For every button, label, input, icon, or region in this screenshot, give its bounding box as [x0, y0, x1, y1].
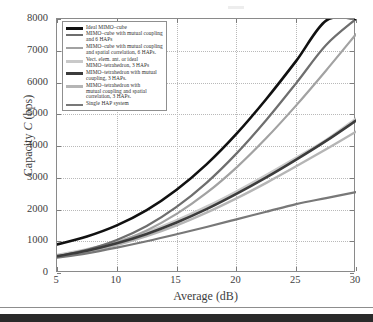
x-tick-label: 20: [230, 274, 241, 286]
page-edge-band: [0, 314, 373, 322]
legend-label: MIMO–cube with mutual coupling and 6 HAP…: [86, 31, 163, 43]
x-axis-tick: [296, 267, 297, 271]
y-axis-tick: [57, 114, 61, 115]
legend-entry: MIMO–cube with mutual coupling and spati…: [65, 44, 164, 56]
legend-swatch: [66, 27, 83, 30]
x-axis-tick: [57, 267, 58, 271]
legend-entry: Single HAP system: [65, 101, 164, 107]
y-axis-tick: [57, 178, 61, 179]
y-axis-tick: [350, 51, 354, 52]
y-axis-tick: [57, 210, 61, 211]
y-axis-tick: [57, 241, 61, 242]
y-axis-tick: [350, 178, 354, 179]
y-axis-tick: [350, 146, 354, 147]
legend-entry: MIMO–tetrahedron with mutual coupling, 3…: [65, 69, 164, 81]
x-axis-tick: [236, 19, 237, 23]
x-axis-tick: [356, 19, 357, 23]
series-line: [57, 119, 356, 255]
legend-swatch: [66, 60, 83, 63]
y-tick-label: 8000: [27, 13, 48, 23]
y-axis-title-suffix: (bps): [21, 95, 35, 123]
y-axis-tick: [350, 114, 354, 115]
legend-swatch: [66, 72, 83, 75]
y-axis-tick: [350, 210, 354, 211]
x-axis-title: Average (dB): [56, 289, 355, 304]
legend-label: MIMO–cube with mutual coupling and spati…: [86, 44, 163, 56]
chart-legend: Ideal MIMO–cubeMIMO–cube with mutual cou…: [62, 21, 167, 111]
legend-entry: Vect. elem. ant. or ideal MIMO–tetrahedr…: [65, 57, 164, 69]
legend-label: Single HAP system: [86, 101, 129, 107]
y-axis-title: Capacity C (bps): [21, 51, 36, 221]
page-divider-rule: [0, 307, 373, 308]
legend-swatch: [66, 34, 83, 36]
legend-entry: MIMO–cube with mutual coupling and 6 HAP…: [65, 31, 164, 43]
y-axis-tick: [350, 241, 354, 242]
x-axis-tick: [117, 267, 118, 271]
legend-entry: MIMO–tetrahedron with mutual coupling an…: [65, 82, 164, 100]
x-tick-label: 25: [290, 274, 301, 286]
x-axis-tick: [356, 267, 357, 271]
legend-label: MIMO–tetrahedron with mutual coupling, 3…: [86, 69, 157, 81]
x-axis-tick: [236, 267, 237, 271]
x-tick-label: 10: [111, 274, 122, 286]
legend-label: MIMO–tetrahedron with mutual coupling an…: [86, 82, 147, 100]
x-axis-tick: [177, 19, 178, 23]
legend-swatch: [66, 104, 83, 106]
figure-container: Ideal MIMO–cubeMIMO–cube with mutual cou…: [0, 0, 373, 322]
y-axis-tick: [350, 19, 354, 20]
y-axis-tick: [57, 146, 61, 147]
x-tick-label: 5: [53, 274, 58, 286]
y-axis-title-symbol: C: [21, 123, 35, 131]
y-axis-tick: [57, 83, 61, 84]
y-tick-label: 1000: [27, 235, 48, 245]
x-axis-title-text: Average (dB): [173, 289, 238, 303]
x-tick-label: 30: [350, 274, 361, 286]
legend-swatch: [66, 85, 83, 87]
x-axis-tick: [296, 19, 297, 23]
y-axis-tick: [57, 51, 61, 52]
x-tick-label: 15: [170, 274, 181, 286]
x-axis-tick: [57, 19, 58, 23]
y-axis-title-prefix: Capacity: [21, 131, 35, 177]
legend-label: Vect. elem. ant. or ideal MIMO–tetrahedr…: [86, 57, 149, 69]
x-axis-tick-labels: 51015202530: [56, 274, 355, 290]
x-axis-tick: [177, 267, 178, 271]
y-tick-label: 0: [43, 267, 48, 277]
legend-swatch: [66, 47, 83, 49]
scan-artifact: [228, 6, 244, 9]
series-line: [57, 121, 356, 257]
y-axis-tick: [350, 83, 354, 84]
